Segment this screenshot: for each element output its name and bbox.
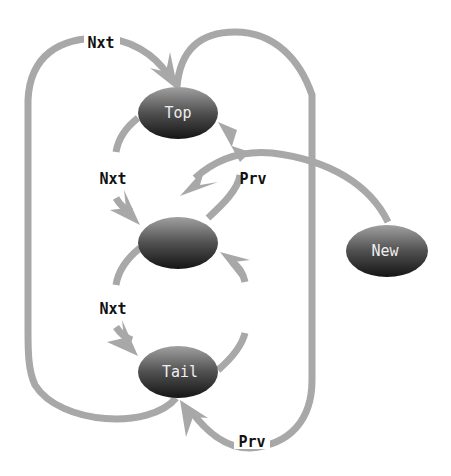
label-prv-middle-top: Prv <box>239 170 266 188</box>
node-middle <box>138 217 218 269</box>
edge-nxt-top-to-middle <box>116 118 138 152</box>
edge-prv-middle-to-top <box>208 175 240 218</box>
svg-text:Top: Top <box>164 104 191 122</box>
label-nxt-outer: Nxt <box>87 34 114 52</box>
node-top: Top <box>138 87 218 139</box>
linked-list-diagram: Top Tail New Nxt Nxt Prv Nxt Prv <box>0 0 451 476</box>
svg-text:New: New <box>371 242 399 260</box>
diagram-canvas: Top Tail New Nxt Nxt Prv Nxt Prv <box>0 0 451 476</box>
node-new: New <box>346 225 428 277</box>
svg-text:Tail: Tail <box>162 363 198 381</box>
edge-new-to-middle <box>195 152 388 222</box>
label-prv-outer: Prv <box>238 433 265 451</box>
edge-nxt-middle-to-tail <box>116 248 140 285</box>
label-nxt-middle-tail: Nxt <box>99 300 126 318</box>
label-nxt-top-middle: Nxt <box>99 170 126 188</box>
edge-prv-tail-to-middle <box>218 333 245 370</box>
node-tail: Tail <box>138 346 218 398</box>
